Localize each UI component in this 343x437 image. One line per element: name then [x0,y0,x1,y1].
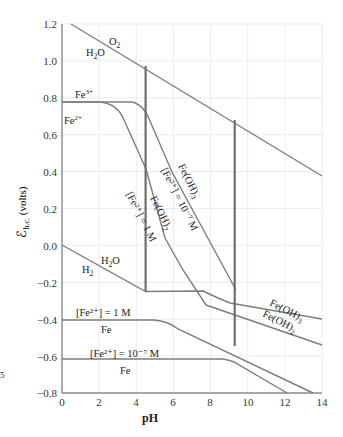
label-fe2-1e7: [Fe²⁺] = 10⁻⁷ M [90,348,160,359]
label-h2: H2 [82,264,94,278]
pourbaix-diagram: 1.2 1.0 0.8 0.6 0.4 0.2 0.0 −0.2 −0.4 −0… [0,0,343,437]
y-tick-labels: 1.2 1.0 0.8 0.6 0.4 0.2 0.0 −0.2 −0.4 −0… [37,18,57,399]
margin-mark: 5 [0,370,5,380]
svg-text:6: 6 [170,396,176,408]
svg-text:1.2: 1.2 [43,18,57,30]
x-tick-labels: 0 2 4 6 8 10 12 14 [59,396,328,408]
label-fe2-1m: [Fe²⁺] = 1 M [76,307,131,318]
svg-text:0.6: 0.6 [43,129,57,141]
svg-text:0.8: 0.8 [43,92,57,104]
svg-text:0: 0 [59,396,65,408]
svg-text:2: 2 [96,396,102,408]
label-fe-b: Fe [120,365,131,376]
label-h2o-top: H2O [86,47,105,61]
svg-text:8: 8 [207,396,213,408]
svg-text:0.2: 0.2 [43,203,57,215]
svg-text:14: 14 [317,396,329,408]
label-fe2: Fe2+ [64,114,82,126]
label-h2o-low: H2O [101,255,120,269]
svg-text:−0.8: −0.8 [37,387,57,399]
svg-text:0.0: 0.0 [43,240,57,252]
x-axis-title: pH [142,411,159,425]
svg-text:4: 4 [133,396,139,408]
y-axis-title: ℰh.c. (volts) [14,186,31,237]
label-fe-a: Fe [101,324,112,335]
svg-text:−0.4: −0.4 [37,314,57,326]
svg-text:0.4: 0.4 [43,166,57,178]
svg-text:−0.6: −0.6 [37,351,57,363]
svg-text:10: 10 [243,396,255,408]
svg-text:−0.2: −0.2 [37,277,57,289]
svg-text:1.0: 1.0 [43,55,57,67]
fe3-fe2-1e7-curve [62,102,236,290]
svg-text:12: 12 [280,396,291,408]
